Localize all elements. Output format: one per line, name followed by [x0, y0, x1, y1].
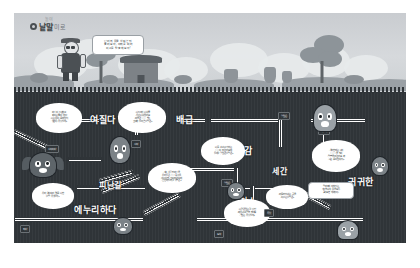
rock-icon	[174, 75, 192, 84]
house-door-icon	[138, 75, 145, 83]
logo-name: 낱말	[39, 23, 52, 32]
keyword-label: 피난길	[99, 179, 122, 190]
node-tag: 도착	[214, 230, 224, 238]
node-tag: 시작이다	[45, 145, 59, 153]
jar-icon	[282, 71, 292, 83]
creature-small	[372, 157, 388, 175]
farmer-leg-icon	[63, 72, 69, 81]
creature-small	[114, 218, 132, 234]
creature-body	[110, 137, 130, 163]
creature-eye-icon	[114, 145, 118, 152]
landscape-scene	[14, 13, 406, 91]
keyword-text: 에누리하다	[74, 205, 117, 215]
clue-bubble: '나를 스스로가 하는 ○○○이 되었어요'에 들어갈 알맞은 낱말은?	[201, 137, 245, 165]
clue-bubble: 바탕이 느슨하고 짜이는 줄이 없다 '나는 옷이 몸에 맞지 않았다' 무엇일…	[36, 103, 82, 133]
rock-icon	[102, 75, 118, 84]
keyword-text: 여질다	[90, 115, 116, 125]
jar-icon	[224, 69, 238, 83]
creature-body	[338, 221, 358, 239]
rock-icon	[30, 73, 48, 83]
node-tag: 되다	[20, 225, 30, 233]
creature-standing	[110, 137, 130, 163]
logo-subtitle: 미로	[54, 22, 66, 31]
clue-bubble-text: '나누어서 나눠줌 '우린 나눠줬어요 '마을은 ○○○ 받는 것이라 돌아온 …	[132, 112, 152, 123]
logo-superscript: 놀이	[45, 16, 53, 22]
farmer-glasses-icon	[71, 46, 75, 49]
keyword-text: 피난길	[99, 181, 122, 190]
keyword-text: 배급	[176, 115, 193, 125]
creature-mouth-icon	[117, 153, 124, 159]
clue-bubble: '머물러 지내는 곳'을 '이르는 낱말은?	[266, 185, 308, 209]
creature-eye-icon	[237, 188, 241, 192]
creature-eye-icon	[45, 161, 51, 167]
keyword-label: 배급	[176, 113, 193, 126]
intro-bubble-text: 단어의 뜻을 살펴본 뒤 풀어 보자, 아래를 따라 미로를 탈출해 보자!	[104, 40, 133, 49]
keyword-label: 여질다	[90, 113, 116, 126]
farmer-arm-icon	[57, 55, 63, 69]
keyword-label: 에누리하다	[74, 203, 117, 216]
creature-bat	[30, 153, 56, 177]
creature-eye-icon	[122, 145, 126, 152]
creature-mouth-icon	[321, 121, 328, 127]
clue-bubble: '새로 살림 밑바탕을 '우리들은 ○○○를 사용 '새로이 한 것이 되었다'…	[148, 163, 196, 193]
node-tag: 알맞은	[278, 112, 290, 120]
pipe-segment	[210, 118, 280, 123]
bat-wing-icon	[55, 157, 64, 169]
creature-ghost	[314, 105, 336, 131]
creature-eye-icon	[327, 113, 332, 120]
logo-mark-icon	[30, 23, 37, 30]
screenshot-root: 낱말 놀이 미로 단어의 뜻을 살펴본 뒤 풀어 보자, 아래를 따라 미로를 …	[0, 0, 420, 268]
creature-eye-icon	[381, 163, 385, 168]
creature-eye-icon	[318, 113, 323, 120]
jar-icon	[264, 67, 276, 83]
keyword-label: 세간	[272, 165, 287, 176]
clue-bubble: '나누어서 나눠줌 '우린 나눠줬어요 '마을은 ○○○ 받는 것이라 돌아온 …	[118, 102, 166, 133]
creature-eye-icon	[35, 161, 41, 167]
clue-bubble-text: '나랑은 맞는걸 멋진 '배우려고 공부 했어요 '알맞는 무엇일까?	[238, 209, 257, 217]
clue-bubble: '우리한테는 나의 ○○○○을 빌려 '말씀을 주었어요' 와 '나는 몸이 맞…	[312, 140, 360, 172]
node-tag: 무엇	[264, 209, 274, 217]
worksheet-card: 낱말 놀이 미로 단어의 뜻을 살펴본 뒤 풀어 보자, 아래를 따라 미로를 …	[14, 13, 406, 243]
farmer-body-icon	[61, 53, 80, 73]
farmer-character	[56, 41, 86, 83]
pipe-segment	[143, 193, 181, 216]
farmer-glasses-icon	[66, 46, 70, 49]
pipe-segment	[76, 185, 100, 190]
pipe-segment	[120, 185, 146, 190]
farmer-leg-icon	[72, 72, 78, 81]
tree-icon	[300, 35, 344, 83]
creature-ghost	[338, 221, 358, 239]
tree-trunk-icon	[321, 61, 324, 83]
maze-area: 여질다 배급 자존감 세간 귀귀한 피난길 에누리하다 처소 바탕이 느슨하고 …	[14, 93, 406, 243]
clue-bubble-text: 바탕이 느슨하고 짜이는 줄이 없다 '나는 옷이 몸에 맞지 않았다' 무엇일…	[50, 113, 68, 124]
brand-logo: 낱말 놀이 미로	[30, 21, 66, 32]
node-tag: 시작	[131, 140, 141, 148]
info-box: 말머리에 적혀있는 가로열쇠의 뜻을 모두 풀어보면 재미있다!	[308, 182, 354, 199]
keyword-text: 세간	[272, 167, 287, 176]
clue-bubble-text: '새로 살림 밑바탕을 '우리들은 ○○○를 사용 '새로이 한 것이 되었다'…	[161, 173, 183, 184]
clue-bubble-text: '우리한테는 나의 ○○○○을 빌려 '말씀을 주었어요' 와 '나는 몸이 맞…	[327, 151, 344, 162]
pipe-segment	[278, 118, 283, 148]
creature-body	[30, 153, 56, 177]
pipe-segment	[14, 129, 47, 149]
info-box-text: 말머리에 적혀있는 가로열쇠의 뜻을 모두 풀어보면 재미있다!	[322, 187, 340, 195]
rock-icon	[344, 75, 364, 84]
clue-bubble-text: '우리 역사소리 몇 몸 나한 '낱말 무엇일까?	[42, 193, 64, 198]
house-icon	[124, 61, 158, 83]
creature-mouth-icon	[377, 168, 382, 172]
clue-bubble-text: '나를 스스로가 하는 ○○○이 되었어요'에 들어갈 알맞은 낱말은?	[213, 147, 233, 155]
house-roof-icon	[120, 55, 162, 63]
creature-small	[228, 183, 244, 199]
intro-bubble: 단어의 뜻을 살펴본 뒤 풀어 보자, 아래를 따라 미로를 탈출해 보자!	[92, 35, 144, 55]
clue-bubble: '우리 역사소리 몇 몸 나한 '낱말 무엇일까?	[32, 183, 74, 209]
pipe-segment	[68, 157, 102, 162]
clue-bubble-text: '머물러 지내는 곳'을 '이르는 낱말은?	[278, 194, 295, 199]
